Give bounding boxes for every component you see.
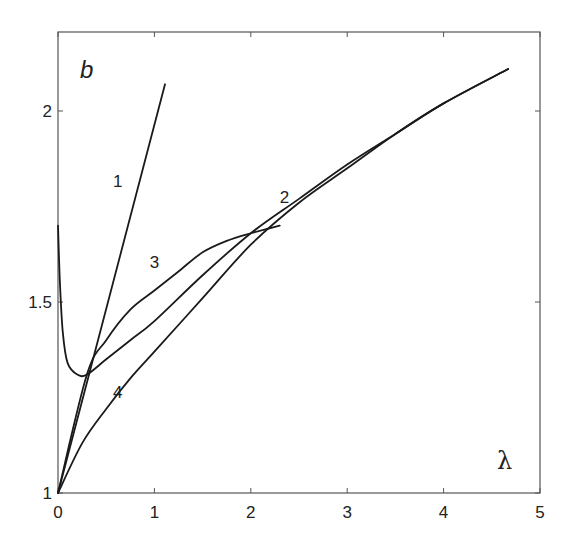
panel-label: b	[80, 56, 93, 83]
x-axis-label: λ	[497, 447, 512, 475]
curve-label-4: 4	[113, 383, 122, 402]
y-tick-label: 1.5	[28, 293, 52, 312]
y-tick-label: 2	[43, 102, 52, 121]
x-tick-label: 3	[342, 503, 351, 522]
x-tick-label: 5	[535, 503, 544, 522]
axis-ticks: 01234511.52	[28, 32, 544, 522]
x-tick-label: 4	[439, 503, 448, 522]
y-tick-label: 1	[43, 484, 52, 503]
x-tick-label: 1	[150, 503, 159, 522]
curve-label-1: 1	[113, 172, 122, 191]
chart: 01234511.52 1234 b λ	[0, 0, 572, 556]
x-tick-label: 2	[246, 503, 255, 522]
curve-label-3: 3	[150, 253, 159, 272]
curve-4	[58, 69, 508, 493]
x-tick-label: 0	[53, 503, 62, 522]
plot-frame	[58, 32, 540, 493]
data-series	[58, 69, 508, 493]
curve-3	[58, 226, 280, 493]
curve-label-2: 2	[280, 188, 289, 207]
curve-1	[58, 84, 165, 493]
curve-2	[58, 69, 508, 376]
axes-box	[58, 32, 540, 493]
